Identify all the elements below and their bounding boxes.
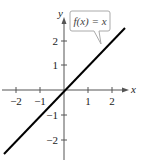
y-tick-label: −2 — [46, 134, 58, 146]
x-tick-label: −2 — [10, 95, 22, 107]
y-axis-label: y — [57, 7, 63, 19]
y-tick-label: −1 — [46, 109, 58, 121]
x-axis-arrow-icon — [122, 88, 129, 93]
function-graph: −2 −1 1 2 2 1 −1 −2 x y f(x) = x — [0, 0, 141, 165]
x-tick-label: 2 — [109, 95, 115, 107]
x-tick-label: 1 — [85, 95, 91, 107]
y-tick-label: 2 — [53, 35, 59, 47]
x-axis-label: x — [130, 83, 136, 95]
callout-label: f(x) = x — [73, 15, 106, 28]
y-tick-label: 1 — [53, 59, 59, 71]
x-tick-label: −1 — [34, 95, 46, 107]
